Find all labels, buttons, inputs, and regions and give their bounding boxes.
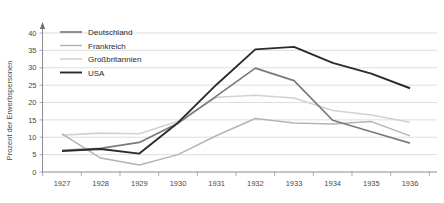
- y-axis-title: Prozent der Erwerbspersonen: [5, 61, 14, 161]
- x-tick-label: 1934: [324, 179, 341, 188]
- y-tick-label: 10: [28, 133, 36, 142]
- y-tick-label: 40: [28, 29, 36, 38]
- x-tick-label: 1935: [363, 179, 380, 188]
- x-tick-label: 1927: [54, 179, 71, 188]
- chart-legend: DeutschlandFrankreichGroßbritannienUSA: [60, 28, 141, 78]
- y-tick-label: 5: [32, 150, 36, 159]
- x-tick-label: 1928: [92, 179, 109, 188]
- series-line-deutschland: [62, 68, 410, 150]
- y-axis: [40, 22, 46, 172]
- gridlines: [43, 33, 438, 155]
- x-tick-label: 1929: [131, 179, 148, 188]
- y-tick-label: 25: [28, 81, 36, 90]
- legend-label-deutschland: Deutschland: [88, 28, 132, 37]
- x-tick-label: 1931: [208, 179, 225, 188]
- y-tick-label: 20: [28, 98, 36, 107]
- y-tick-label: 35: [28, 46, 36, 55]
- y-tick-label: 0: [32, 168, 36, 177]
- legend-label-frankreich: Frankreich: [88, 42, 126, 51]
- legend-label-gro-britannien: Großbritannien: [88, 55, 141, 64]
- legend-label-usa: USA: [88, 69, 105, 78]
- x-tick-label: 1930: [170, 179, 187, 188]
- y-tick-label: 30: [28, 63, 36, 72]
- x-tick-label: 1932: [247, 179, 264, 188]
- y-axis-title-text: Prozent der Erwerbspersonen: [5, 61, 14, 161]
- x-tick-labels: 1927192819291930193119321933193419351936: [54, 179, 419, 188]
- chart-container: 0510152025303540 19271928192919301931193…: [0, 0, 444, 203]
- x-axis: [43, 172, 438, 176]
- series-lines: [62, 47, 410, 165]
- x-tick-label: 1936: [402, 179, 419, 188]
- x-tick-label: 1933: [286, 179, 303, 188]
- series-line-frankreich: [62, 118, 410, 165]
- y-tick-label: 15: [28, 116, 36, 125]
- y-axis-arrow: [40, 22, 45, 29]
- line-chart: 0510152025303540 19271928192919301931193…: [0, 0, 444, 203]
- y-tick-labels: 0510152025303540: [28, 29, 36, 177]
- series-line-gro-britannien: [62, 95, 410, 135]
